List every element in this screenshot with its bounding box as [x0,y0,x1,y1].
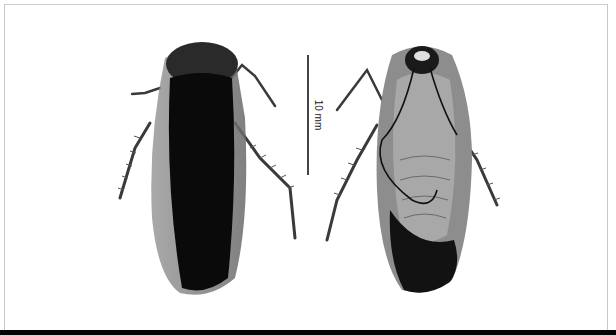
bottom-bar [0,330,616,335]
scale-bar [307,55,309,175]
dorsal-specimen [110,38,310,300]
ventral-abdomen [393,73,455,243]
dorsal-body [169,73,234,290]
ventral-specimen [322,40,507,300]
mouthparts [414,51,430,61]
